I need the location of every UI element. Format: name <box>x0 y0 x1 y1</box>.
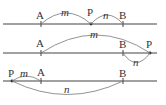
label-m: m <box>61 6 69 18</box>
number-line-diagram: A P B m n A B P m n P A B m n <box>0 0 166 105</box>
label-p: P <box>8 67 14 79</box>
label-m: m <box>90 28 98 40</box>
label-b: B <box>119 9 126 21</box>
panel-case-1: A P B m n <box>3 6 157 27</box>
label-p: P <box>146 38 152 50</box>
label-n: n <box>133 56 139 68</box>
label-b: B <box>119 67 126 79</box>
label-a: A <box>37 66 45 78</box>
label-n: n <box>64 83 70 95</box>
label-p: P <box>87 6 93 18</box>
label-b: B <box>119 38 126 50</box>
panel-case-3: P A B m n <box>3 66 157 95</box>
label-a: A <box>36 9 44 21</box>
label-m: m <box>20 67 28 79</box>
label-a: A <box>36 37 44 49</box>
panel-case-2: A B P m n <box>3 28 157 68</box>
label-n: n <box>103 9 109 21</box>
